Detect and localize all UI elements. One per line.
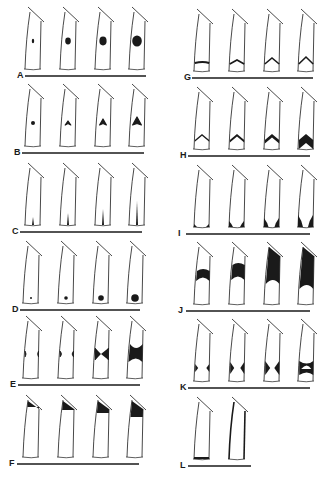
panel-a: A (17, 7, 148, 80)
panel-h: H (180, 87, 317, 160)
cell (92, 395, 112, 458)
cell (126, 241, 146, 304)
cell (228, 242, 248, 305)
panel-l: L (180, 397, 251, 470)
cell (94, 7, 114, 70)
cell (228, 319, 248, 382)
cell (128, 7, 148, 70)
cell (263, 319, 283, 382)
cell (57, 241, 77, 304)
cell (193, 87, 213, 150)
panel-label: B (14, 147, 21, 157)
panel-label: C (12, 226, 19, 236)
cell (263, 242, 283, 305)
cell (126, 395, 146, 458)
cell (57, 395, 77, 458)
cell (228, 397, 248, 460)
panel-label: A (17, 70, 24, 80)
cell (24, 163, 44, 226)
cell (59, 7, 79, 70)
cell (297, 87, 317, 150)
cell (24, 7, 44, 70)
panel-f: F (9, 395, 146, 468)
panel-g: G (184, 9, 317, 82)
cell (263, 9, 283, 72)
cell-series-diagram: ABCDEFGHIJKL (0, 0, 329, 477)
cell (92, 241, 112, 304)
cell (193, 9, 213, 72)
cell (59, 163, 79, 226)
cell (263, 87, 283, 150)
cell (94, 163, 114, 226)
cell (59, 84, 79, 147)
cell (22, 241, 42, 304)
panel-label: K (180, 382, 187, 392)
panel-k: K (180, 319, 317, 392)
panel-b: B (14, 84, 148, 157)
panel-label: F (9, 458, 15, 468)
cell (297, 165, 317, 228)
panel-label: H (180, 150, 187, 160)
panel-label: L (180, 460, 186, 470)
cell (128, 163, 148, 226)
cell (57, 316, 77, 379)
panel-label: D (12, 304, 19, 314)
cell (193, 319, 213, 382)
panel-e: E (10, 316, 146, 389)
cell (22, 395, 42, 458)
cell (92, 316, 112, 379)
cell (297, 319, 317, 382)
cell (228, 9, 248, 72)
cell (297, 242, 317, 305)
panel-c: C (12, 163, 148, 236)
cell (263, 165, 283, 228)
panel-label: G (184, 72, 191, 82)
panel-j: J (178, 242, 317, 315)
cell (193, 165, 213, 228)
cell (126, 316, 146, 379)
panel-label: J (178, 305, 183, 315)
cell (228, 165, 248, 228)
panel-label: I (178, 228, 181, 238)
cell (297, 9, 317, 72)
panel-d: D (12, 241, 146, 314)
cell (24, 84, 44, 147)
cell (228, 87, 248, 150)
cell (22, 316, 42, 379)
panel-i: I (178, 165, 317, 238)
panel-label: E (10, 379, 16, 389)
cell (193, 397, 213, 460)
cell (128, 84, 148, 147)
cell (193, 242, 213, 305)
cell (94, 84, 114, 147)
